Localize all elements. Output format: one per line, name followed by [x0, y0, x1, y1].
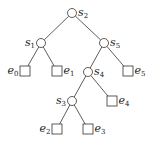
leaf-e3 — [83, 124, 93, 134]
leaf-e2 — [52, 124, 62, 134]
edge-s2-s1 — [44, 16, 69, 40]
leaf-e5 — [123, 66, 133, 76]
label-e1: e1 — [64, 64, 75, 78]
tree-diagram: s2s1s5s4s3e0e1e5e4e2e3 — [0, 0, 153, 146]
label-e4: e4 — [119, 94, 131, 108]
tree-canvas: s2s1s5s4s3e0e1e5e4e2e3 — [0, 0, 153, 146]
leaf-e4 — [107, 96, 117, 106]
label-e0: e0 — [8, 64, 19, 78]
label-s2: s2 — [78, 6, 88, 20]
label-s5: s5 — [110, 36, 120, 50]
node-s5 — [100, 39, 109, 48]
node-s1 — [37, 39, 46, 48]
label-s1: s1 — [25, 36, 35, 50]
label-e3: e3 — [95, 122, 106, 136]
node-s4 — [84, 68, 93, 77]
edge-s1-e1 — [43, 47, 54, 66]
leaf-e0 — [20, 66, 30, 76]
edge-s4-s3 — [74, 76, 86, 97]
leaf-e1 — [52, 66, 62, 76]
label-e5: e5 — [135, 64, 146, 78]
node-s2 — [68, 9, 77, 18]
node-s3 — [68, 97, 77, 106]
edge-s3-e3 — [74, 105, 85, 124]
label-s3: s3 — [56, 94, 66, 108]
label-s4: s4 — [94, 65, 105, 79]
label-e2: e2 — [40, 122, 51, 136]
